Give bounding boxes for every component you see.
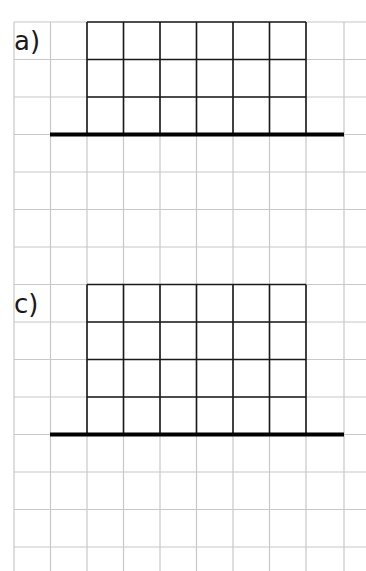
figure-a-label: a) bbox=[14, 28, 40, 54]
figure-c-label: c) bbox=[14, 291, 38, 317]
figure-a-grid bbox=[50, 22, 344, 135]
figure-c-grid bbox=[50, 285, 344, 435]
background-grid bbox=[14, 22, 366, 571]
worksheet-canvas bbox=[0, 0, 366, 571]
